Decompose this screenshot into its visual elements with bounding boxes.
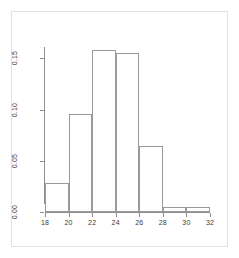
x-axis-tick-label: 28	[159, 219, 167, 226]
x-axis-tick	[210, 213, 211, 217]
x-axis-tick	[45, 213, 46, 217]
histogram-bar	[139, 146, 163, 212]
x-axis-tick	[139, 213, 140, 217]
y-axis-tick-label: 0.15	[11, 51, 18, 65]
histogram-bar	[116, 53, 140, 212]
y-axis-tick-label: 0.05	[11, 154, 18, 168]
histogram-figure: 0.000.050.100.15 1820222426283032	[0, 0, 239, 258]
x-axis-tick-label: 30	[182, 219, 190, 226]
y-axis-tick-label: 0.10	[11, 102, 18, 116]
y-axis-tick	[40, 110, 44, 111]
histogram-bar	[186, 207, 210, 212]
histogram-bar	[45, 183, 69, 212]
x-axis-tick	[92, 213, 93, 217]
x-axis-line	[45, 212, 210, 213]
x-axis-tick	[69, 213, 70, 217]
x-axis-tick	[163, 213, 164, 217]
x-axis-tick-label: 22	[88, 219, 96, 226]
x-axis-tick	[186, 213, 187, 217]
y-axis-tick	[40, 212, 44, 213]
x-axis-tick-label: 18	[41, 219, 49, 226]
x-axis-tick-label: 24	[112, 219, 120, 226]
x-axis-tick	[116, 213, 117, 217]
x-axis-tick-label: 32	[206, 219, 214, 226]
histogram-bar	[69, 114, 93, 212]
histogram-bar	[163, 207, 187, 212]
histogram-bars	[45, 44, 210, 212]
histogram-bar	[92, 50, 116, 212]
y-axis-tick-label: 0.00	[11, 205, 18, 219]
x-axis-tick-label: 20	[64, 219, 72, 226]
x-axis-tick-label: 26	[135, 219, 143, 226]
y-axis-tick	[40, 58, 44, 59]
y-axis-tick	[40, 161, 44, 162]
